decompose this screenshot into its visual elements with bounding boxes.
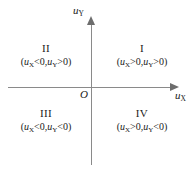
quadrant-condition-ii: (uX<0,uY>0) [6,56,86,68]
x-axis-label-var: u [175,89,181,101]
quadrant-condition-i: (uX>0,uY>0) [98,56,186,68]
op-2: <0 [57,121,68,132]
y-axis-label-subscript: Y [79,9,84,18]
var-1-subscript: X [29,61,34,69]
quadrant-label-ii: II (uX<0,uY>0) [6,42,86,68]
y-axis-arrow-icon [87,16,95,25]
var-1-subscript: X [125,126,130,134]
origin-label: O [80,89,88,100]
quadrant-numeral-iii: III [6,107,86,120]
quadrant-label-i: I (uX>0,uY>0) [98,42,186,68]
op-1: >0, [130,56,143,67]
var-1-subscript: X [125,61,130,69]
quadrant-label-iii: III (uX<0,uY<0) [6,107,86,133]
op-1: <0, [34,121,47,132]
op-1: <0, [34,56,47,67]
var-2-subscript: Y [52,126,57,134]
paren-close: ) [164,121,167,132]
op-2: <0 [153,121,164,132]
paren-close: ) [164,56,167,67]
var-2-subscript: Y [148,61,153,69]
quadrant-numeral-i: I [98,42,186,55]
var-2-subscript: Y [52,61,57,69]
var-2-subscript: Y [148,126,153,134]
y-axis-line [91,24,92,165]
op-2: >0 [153,56,164,67]
quadrant-numeral-iv: IV [98,107,186,120]
quadrant-numeral-ii: II [6,42,86,55]
x-axis-label-subscript: X [181,94,186,103]
op-2: >0 [57,56,68,67]
y-axis-label: uY [73,5,84,16]
quadrant-condition-iv: (uX>0,uY<0) [98,121,186,133]
paren-close: ) [68,121,71,132]
quadrant-condition-iii: (uX<0,uY<0) [6,121,86,133]
var-1-subscript: X [29,126,34,134]
quadrant-label-iv: IV (uX>0,uY<0) [98,107,186,133]
x-axis-line [8,87,172,88]
y-axis-label-var: u [73,4,79,16]
x-axis-label: uX [175,90,186,101]
op-1: >0, [130,121,143,132]
paren-close: ) [68,56,71,67]
quadrant-diagram: uY uX O II (uX<0,uY>0) I (uX>0,uY>0) III… [0,0,193,173]
